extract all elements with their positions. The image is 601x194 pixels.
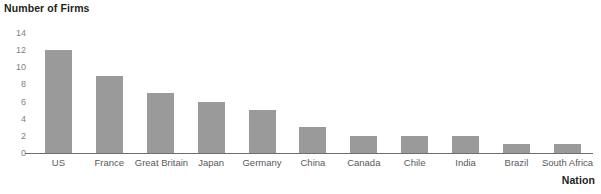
- bar-slot: [491, 0, 542, 153]
- y-axis-tick-labels: 14121086420: [0, 0, 33, 194]
- x-axis-title: Nation: [562, 174, 595, 186]
- y-axis-tick-label: 14: [16, 29, 26, 38]
- bar-slot: [237, 0, 288, 153]
- bar[interactable]: [96, 76, 123, 153]
- bar-slot: [542, 0, 593, 153]
- y-axis-tick-label: 12: [16, 46, 26, 55]
- bar-slot: [135, 0, 186, 153]
- x-axis-line: [25, 153, 593, 154]
- x-axis-tick-label: Brazil: [491, 156, 542, 172]
- bar-slot: [186, 0, 237, 153]
- x-axis-tick-label: China: [287, 156, 338, 172]
- bar-slot: [287, 0, 338, 153]
- bar-slot: [84, 0, 135, 153]
- x-axis-tick-label: South Africa: [542, 156, 593, 172]
- bar[interactable]: [350, 136, 377, 153]
- bar[interactable]: [452, 136, 479, 153]
- x-axis-tick-label: Germany: [237, 156, 288, 172]
- y-axis-tick-label: 10: [16, 63, 26, 72]
- bar-slot: [338, 0, 389, 153]
- bar-chart: Number of Firms 14121086420 USFranceGrea…: [0, 0, 601, 194]
- bar[interactable]: [299, 127, 326, 153]
- x-axis-tick-label: Japan: [186, 156, 237, 172]
- x-axis-tick-label: US: [33, 156, 84, 172]
- bar-slot: [389, 0, 440, 153]
- bar-slot: [33, 0, 84, 153]
- y-axis-tick-label: 4: [21, 114, 26, 123]
- bar[interactable]: [198, 102, 225, 153]
- bar-series: [33, 0, 593, 153]
- x-axis-tick-labels: USFranceGreat BritainJapanGermanyChinaCa…: [33, 156, 593, 172]
- bar-slot: [440, 0, 491, 153]
- x-axis-tick-label: Chile: [389, 156, 440, 172]
- bar[interactable]: [503, 144, 530, 153]
- bar[interactable]: [45, 50, 72, 153]
- bar[interactable]: [401, 136, 428, 153]
- bar[interactable]: [554, 144, 581, 153]
- bar[interactable]: [249, 110, 276, 153]
- x-axis-tick-label: Great Britain: [135, 156, 186, 172]
- x-axis-tick-label: India: [440, 156, 491, 172]
- y-axis-tick-label: 6: [21, 97, 26, 106]
- bar[interactable]: [147, 93, 174, 153]
- y-axis-tick-label: 8: [21, 80, 26, 89]
- x-axis-tick-label: France: [84, 156, 135, 172]
- y-axis-tick-label: 2: [21, 131, 26, 140]
- x-axis-tick-label: Canada: [338, 156, 389, 172]
